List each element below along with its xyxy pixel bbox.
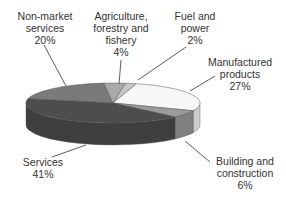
label-percent: 6%: [205, 179, 285, 191]
label-text: forestry and: [86, 22, 156, 34]
pie-top-face: [26, 83, 200, 123]
label-text: Non-market: [10, 10, 80, 22]
label-percent: 20%: [10, 34, 80, 46]
label-text: Agriculture,: [86, 10, 156, 22]
label-text: power: [170, 22, 220, 34]
label-building-and-construction: Building and construction 6%: [205, 155, 285, 191]
label-percent: 2%: [170, 34, 220, 46]
label-text: Services: [18, 156, 68, 168]
label-manufactured-products: Manufactured products 27%: [200, 56, 280, 92]
label-non-market-services: Non-market services 20%: [10, 10, 80, 46]
label-agriculture: Agriculture, forestry and fishery 4%: [86, 10, 156, 58]
label-services: Services 41%: [18, 156, 68, 180]
label-text: construction: [205, 167, 285, 179]
label-text: products: [200, 68, 280, 80]
label-text: services: [10, 22, 80, 34]
label-percent: 41%: [18, 168, 68, 180]
label-text: Building and: [205, 155, 285, 167]
label-percent: 27%: [200, 80, 280, 92]
label-percent: 4%: [86, 46, 156, 58]
label-text: Manufactured: [200, 56, 280, 68]
label-text: Fuel and: [170, 10, 220, 22]
label-text: fishery: [86, 34, 156, 46]
label-fuel-and-power: Fuel and power 2%: [170, 10, 220, 46]
